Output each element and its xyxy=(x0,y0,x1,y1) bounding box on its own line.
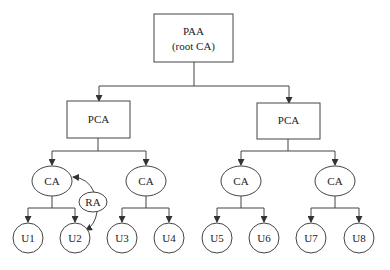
edges-root-to-pca xyxy=(99,62,289,103)
ca-1-label: CA xyxy=(44,175,59,187)
ca-node-2: CA xyxy=(126,166,166,196)
ca-node-1: CA xyxy=(32,166,72,196)
user-5-label: U5 xyxy=(210,232,224,244)
user-8-label: U8 xyxy=(352,232,366,244)
user-node-5: U5 xyxy=(202,223,232,253)
ra-label: RA xyxy=(85,196,100,208)
pca-right-node: PCA xyxy=(257,103,320,139)
user-node-6: U6 xyxy=(249,223,279,253)
user-node-4: U4 xyxy=(154,223,184,253)
pca-left-node: PCA xyxy=(67,101,130,138)
user-node-3: U3 xyxy=(107,223,137,253)
ca-3-label: CA xyxy=(233,175,248,187)
user-3-label: U3 xyxy=(115,232,129,244)
user-4-label: U4 xyxy=(162,232,176,244)
ca-2-label: CA xyxy=(138,175,153,187)
paa-root-node: PAA (root CA) xyxy=(154,14,233,62)
user-2-label: U2 xyxy=(68,232,81,244)
user-node-2: U2 xyxy=(60,223,90,253)
paa-label: PAA xyxy=(183,25,204,37)
edges-pca-right-to-ca xyxy=(241,139,335,165)
ra-node: RA xyxy=(79,192,107,212)
pki-hierarchy-diagram: PAA (root CA) PCA PCA CA CA xyxy=(0,0,390,270)
pca-right-label: PCA xyxy=(278,114,299,126)
ca-4-label: CA xyxy=(327,175,342,187)
ca-node-4: CA xyxy=(315,166,355,196)
user-node-1: U1 xyxy=(13,223,43,253)
user-1-label: U1 xyxy=(21,232,34,244)
user-node-7: U7 xyxy=(296,223,326,253)
user-node-8: U8 xyxy=(344,223,374,253)
user-7-label: U7 xyxy=(304,232,318,244)
root-ca-label: (root CA) xyxy=(172,40,215,53)
ca-node-3: CA xyxy=(221,166,261,196)
pca-left-label: PCA xyxy=(88,113,109,125)
edges-pca-left-to-ca xyxy=(52,138,146,165)
edges-ca-to-users xyxy=(28,196,359,222)
user-6-label: U6 xyxy=(257,232,271,244)
